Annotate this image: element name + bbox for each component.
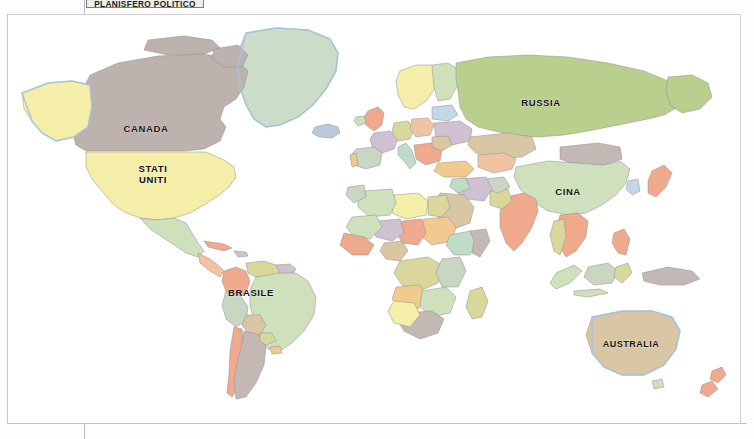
map-label-brasile: BRASILE [228, 287, 274, 298]
map-label-cina: CINA [555, 186, 581, 197]
map-label-stati-uniti-1: STATI [138, 163, 167, 174]
map-title-plate: PLANISFERO POLITICO [86, 0, 204, 8]
country-turkey [434, 161, 474, 177]
page-rule-right [740, 14, 741, 424]
map-label-stati-uniti-2: UNITI [139, 174, 167, 185]
country-poland [410, 118, 434, 137]
world-map: .c{stroke:#8f8f8f;stroke-width:.5;stroke… [8, 15, 740, 423]
island-tasmania [652, 379, 664, 389]
map-label-russia: RUSSIA [521, 97, 561, 108]
page-tick-bottom [84, 424, 85, 439]
map-title: PLANISFERO POLITICO [94, 0, 196, 8]
atlas-page: PLANISFERO POLITICO .c{stroke:#8f8f8f;st… [0, 0, 754, 439]
page-tick-top [84, 0, 85, 14]
page-rule-bottom [7, 423, 747, 424]
country-libya [392, 193, 428, 219]
world-map-svg: .c{stroke:#8f8f8f;stroke-width:.5;stroke… [8, 15, 740, 423]
country-mongolia [560, 143, 622, 165]
map-label-canada: CANADA [124, 123, 169, 134]
map-label-australia: AUSTRALIA [603, 339, 660, 349]
country-uruguay [270, 346, 282, 354]
